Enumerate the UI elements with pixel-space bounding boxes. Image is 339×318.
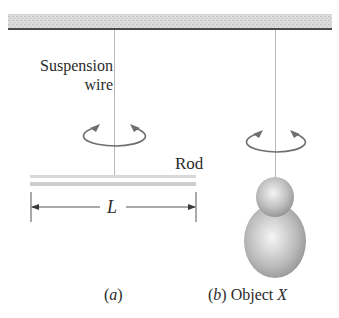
suspension-wire-label-line2: wire: [10, 75, 113, 94]
rod-label: Rod: [175, 154, 203, 174]
caption-b: (b) Object X: [208, 286, 287, 304]
torsion-pendulum-diagram: Suspension wire Rod L (a) (b) Object X: [0, 0, 339, 318]
caption-a-close: ): [117, 286, 122, 303]
ceiling-support: [8, 14, 332, 30]
caption-b-close: ): [221, 286, 226, 303]
rod: [30, 175, 196, 186]
diagram-canvas: [0, 0, 339, 318]
object-name: X: [277, 286, 287, 303]
caption-a: (a): [104, 286, 123, 304]
object-word: Object: [231, 286, 274, 303]
suspension-wire-label-line1: Suspension: [10, 56, 113, 75]
object-x: [244, 177, 306, 278]
length-label: L: [104, 197, 120, 218]
suspension-wire-label: Suspension wire: [10, 56, 113, 94]
